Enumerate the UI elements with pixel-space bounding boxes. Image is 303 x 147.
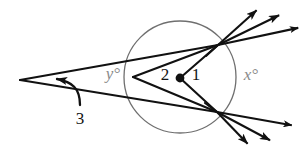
ray-upper-2 xyxy=(218,15,279,45)
ray-upper-3 xyxy=(218,28,298,45)
chord-left-to-upper xyxy=(133,45,218,77)
center-point-dot xyxy=(176,74,185,83)
angle-label-1: 1 xyxy=(192,65,201,84)
chord-left-to-lower xyxy=(133,77,217,112)
geometry-diagram-svg: y° x° 2 1 3 xyxy=(0,0,303,147)
angle-label-y: y° xyxy=(104,64,121,83)
angle-label-3: 3 xyxy=(76,109,85,128)
angle-label-x: x° xyxy=(243,65,259,84)
angle-label-2: 2 xyxy=(161,65,170,84)
angle-3-arc-arrow xyxy=(57,79,80,105)
geometry-figure: y° x° 2 1 3 xyxy=(0,0,303,147)
ray-upper-1 xyxy=(218,10,257,45)
